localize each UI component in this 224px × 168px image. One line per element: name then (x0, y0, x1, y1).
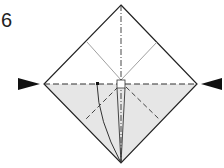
origami-fold-diagram (0, 0, 224, 168)
crease-upper-right (121, 42, 157, 80)
center-square (117, 80, 125, 88)
arrow-left-icon (18, 78, 40, 90)
crease-upper-left (87, 42, 121, 80)
flap-corner-dot (96, 82, 99, 85)
arrow-right-icon (201, 78, 222, 90)
